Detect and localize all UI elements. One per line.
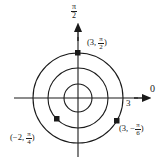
paren-close: ): [32, 132, 35, 142]
point-label-a: (3, π2): [87, 36, 107, 51]
fraction-denominator: 2: [71, 11, 77, 20]
angle-fraction: π6: [135, 122, 141, 137]
fraction-denominator: 2: [98, 43, 104, 51]
paren-close: ): [104, 37, 107, 47]
pi-over-2-fraction: π 2: [71, 3, 77, 20]
point-comma: , −: [126, 123, 135, 133]
fraction-numerator: π: [71, 3, 77, 11]
point-label-c: (−2, π4): [10, 131, 35, 146]
point-radius: −2: [13, 132, 22, 142]
polar-axis-label: 0: [150, 84, 155, 94]
point-label-b: (3, −π6): [119, 122, 144, 137]
angle-fraction: π2: [98, 36, 104, 51]
fraction-denominator: 6: [135, 129, 141, 137]
paren-close: ): [141, 123, 144, 133]
polar-graph-figure: π 2 0 3 (3, π2) (3, −π6) (−2, π4): [0, 0, 164, 165]
fraction-numerator: π: [135, 122, 141, 129]
data-point-c: [54, 116, 60, 122]
radial-tick-label: 3: [126, 99, 131, 108]
fraction-numerator: π: [26, 131, 32, 138]
fraction-numerator: π: [98, 36, 104, 43]
vertical-axis-label: π 2: [71, 3, 77, 20]
fraction-denominator: 4: [26, 138, 32, 146]
data-point-a: [75, 50, 81, 56]
angle-fraction: π4: [26, 131, 32, 146]
